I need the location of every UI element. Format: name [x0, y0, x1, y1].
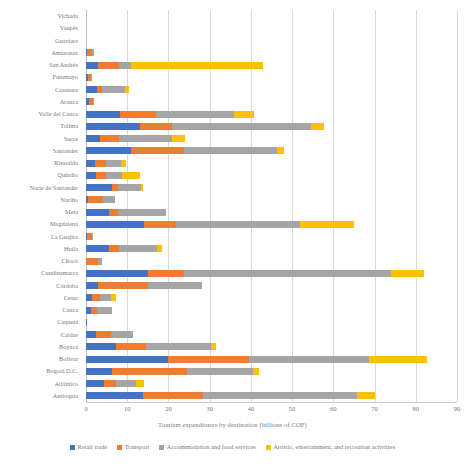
bar-row — [86, 294, 457, 301]
bar-segment — [103, 196, 115, 203]
category-label: Boyacá — [59, 343, 78, 351]
bar-segment — [172, 123, 311, 130]
bar-segment — [253, 368, 259, 375]
bar-segment — [86, 282, 98, 289]
bar-segment — [157, 245, 162, 252]
bar-row — [86, 209, 457, 216]
legend-swatch-icon — [266, 445, 271, 450]
bar-row — [86, 123, 457, 130]
bar-row — [86, 380, 457, 387]
bar-segment — [97, 307, 111, 314]
bar-segment — [141, 184, 143, 191]
bar-segment — [119, 135, 173, 142]
bar-segment — [98, 258, 102, 265]
x-tick-label: 70 — [371, 404, 378, 414]
x-tick-label: 20 — [165, 404, 172, 414]
bar-segment — [86, 258, 98, 265]
legend-item[interactable]: Transport — [117, 443, 149, 451]
bar-segment — [95, 160, 106, 167]
category-label: Atlántico — [55, 380, 78, 388]
x-tick-label: 40 — [248, 404, 255, 414]
bar-row — [86, 111, 457, 118]
bar-segment — [148, 270, 183, 277]
bar-segment — [122, 172, 139, 179]
bar-row — [86, 392, 457, 399]
legend-swatch-icon — [117, 445, 122, 450]
bar-segment — [187, 368, 253, 375]
category-label: Guaviare — [55, 37, 78, 45]
legend-swatch-icon — [159, 445, 164, 450]
bar-segment — [118, 184, 141, 191]
bar-segment — [86, 270, 148, 277]
stacked-bar-chart: VichadaVaupésGuaviareAmazonasSan AndrésP… — [0, 0, 465, 465]
bar-row — [86, 307, 457, 314]
bar-segment — [119, 62, 131, 69]
bar-segment — [143, 392, 203, 399]
bar-row — [86, 258, 457, 265]
legend-item[interactable]: Accommodation and food services — [159, 443, 255, 451]
bar-segment — [86, 111, 120, 118]
bar-row — [86, 86, 457, 93]
bar-row — [86, 160, 457, 167]
legend-item[interactable]: Retail trade — [70, 443, 107, 451]
bar-segment — [176, 221, 300, 228]
bar-segment — [184, 147, 277, 154]
bar-segment — [300, 221, 354, 228]
legend-label: Transport — [125, 443, 150, 451]
bar-row — [86, 245, 457, 252]
x-tick-label: 80 — [413, 404, 420, 414]
bar-segment — [120, 111, 156, 118]
x-tick-label: 60 — [330, 404, 337, 414]
bar-segment — [96, 331, 111, 338]
category-label: Bolívar — [59, 355, 78, 363]
bar-segment — [100, 294, 111, 301]
bar-segment — [102, 86, 124, 93]
bar-segment — [116, 343, 146, 350]
bar-segment — [125, 86, 129, 93]
category-label: Antioquia — [53, 392, 78, 400]
bar-row — [86, 172, 457, 179]
bar-segment — [88, 196, 102, 203]
bar-segment — [86, 172, 96, 179]
legend-item[interactable]: Artistic, entertainment, and recreation … — [266, 443, 395, 451]
bar-segment — [86, 331, 96, 338]
bar-segment — [369, 356, 427, 363]
bar-segment — [391, 270, 424, 277]
category-label: Quindío — [57, 171, 78, 179]
bar-row — [86, 37, 457, 44]
legend-label: Retail trade — [78, 443, 108, 451]
bar-segment — [249, 356, 369, 363]
legend-label: Artistic, entertainment, and recreation … — [273, 443, 395, 451]
bar-row — [86, 74, 457, 81]
bar-segment — [92, 294, 100, 301]
bar-segment — [168, 356, 250, 363]
x-tick-label: 0 — [84, 404, 87, 414]
legend-swatch-icon — [70, 445, 75, 450]
bar-row — [86, 147, 457, 154]
category-label: Norte de Santander — [29, 184, 78, 192]
category-label: Casanare — [55, 86, 78, 94]
bar-segment — [86, 319, 87, 326]
category-label: Vichada — [57, 12, 78, 20]
x-tick-label: 10 — [124, 404, 131, 414]
bar-row — [86, 135, 457, 142]
x-axis-line — [86, 402, 457, 403]
bar-segment — [148, 282, 202, 289]
bar-segment — [234, 111, 255, 118]
category-axis-labels: VichadaVaupésGuaviareAmazonasSan AndrésP… — [0, 10, 82, 402]
bar-row — [86, 282, 457, 289]
bar-segment — [116, 380, 135, 387]
bar-segment — [146, 343, 211, 350]
bar-segment — [86, 392, 143, 399]
bar-segment — [144, 221, 176, 228]
bar-row — [86, 62, 457, 69]
category-label: Vaupés — [60, 24, 78, 32]
category-label: Chocó — [62, 257, 78, 265]
bar-row — [86, 49, 457, 56]
bar-row — [86, 356, 457, 363]
bar-segment — [86, 160, 95, 167]
bar-segment — [104, 380, 116, 387]
bar-segment — [86, 356, 168, 363]
bar-segment — [111, 294, 116, 301]
bar-segment — [86, 123, 140, 130]
